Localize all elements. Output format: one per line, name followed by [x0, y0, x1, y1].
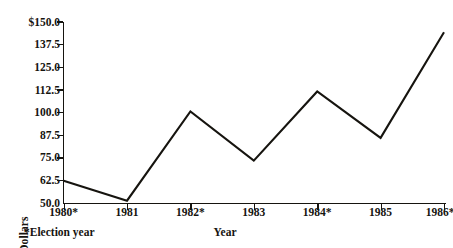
data-series-line [64, 32, 444, 200]
line-chart: Millions of Dollars $150.0 137.5 125.0 1… [0, 0, 453, 248]
x-axis-title: Year [180, 226, 270, 238]
x-tick-label-1986: 1986* [405, 206, 453, 218]
x-tick-label-1983: 1983 [219, 206, 289, 218]
x-tick-label-1981: 1981 [92, 206, 162, 218]
x-tick-label-1982: 1982* [155, 206, 225, 218]
x-tick-label-1980: 1980* [29, 206, 99, 218]
footnote-election-year: *Election year [24, 226, 95, 238]
x-tick-label-1984: 1984* [282, 206, 352, 218]
